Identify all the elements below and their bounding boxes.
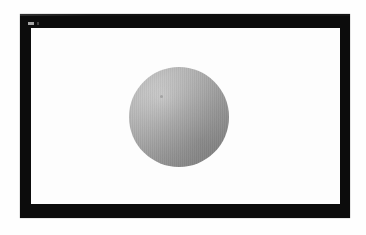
black-bezel-frame	[20, 14, 350, 218]
sphere-specular-glint-icon	[160, 95, 163, 98]
bezel-marker-dot-icon	[37, 22, 39, 25]
sphere-banding-artifact	[129, 67, 229, 167]
screenshot-canvas	[0, 0, 366, 235]
sphere-terminator-shadow	[129, 67, 229, 167]
bezel-marker-icon	[28, 22, 34, 25]
render-viewport[interactable]	[31, 28, 340, 204]
bezel-top-sheen	[20, 14, 350, 16]
shaded-sphere[interactable]	[129, 67, 229, 167]
